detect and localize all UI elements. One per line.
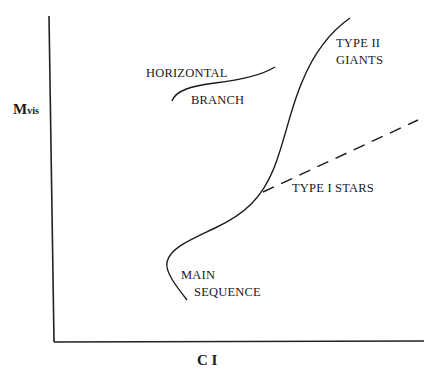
label-type-i-stars: TYPE I STARS [292, 181, 374, 196]
x-axis-label: C I [197, 352, 217, 369]
main-sequence-giants-curve [167, 18, 350, 300]
label-sequence: SEQUENCE [194, 285, 261, 300]
label-main: MAIN [181, 268, 215, 283]
y-axis-label-sub: vis [27, 105, 39, 116]
y-axis [49, 16, 54, 342]
label-branch: BRANCH [191, 93, 244, 108]
label-type-ii: TYPE II [336, 36, 380, 51]
y-axis-label: Mvis [13, 101, 39, 118]
y-axis-label-main: M [13, 101, 27, 117]
x-axis [54, 341, 424, 342]
label-giants: GIANTS [336, 53, 383, 68]
label-horizontal: HORIZONTAL [146, 66, 228, 81]
